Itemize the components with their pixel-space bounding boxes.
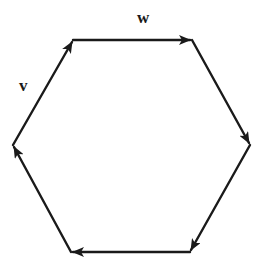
edge-right-to-bottom-right xyxy=(191,145,250,250)
edge-top-right-to-right xyxy=(192,40,249,143)
label-w: w xyxy=(137,8,150,27)
hexagon-diagram: w v xyxy=(0,0,262,276)
edge-bottom-left-to-left xyxy=(14,147,71,252)
label-v: v xyxy=(19,76,28,95)
